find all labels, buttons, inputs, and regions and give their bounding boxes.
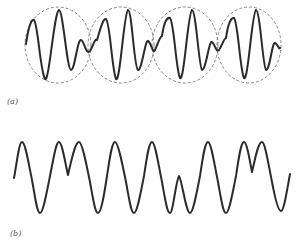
envelope-4	[217, 7, 281, 83]
envelope-1	[25, 7, 91, 83]
panel-a-label: (a)	[7, 97, 18, 106]
waveform-b	[14, 142, 290, 213]
envelope-3	[152, 7, 218, 83]
envelope-2	[88, 7, 154, 83]
panel-b-label: (b)	[10, 229, 21, 238]
figure-canvas	[0, 0, 298, 244]
waveform-a	[26, 10, 280, 79]
